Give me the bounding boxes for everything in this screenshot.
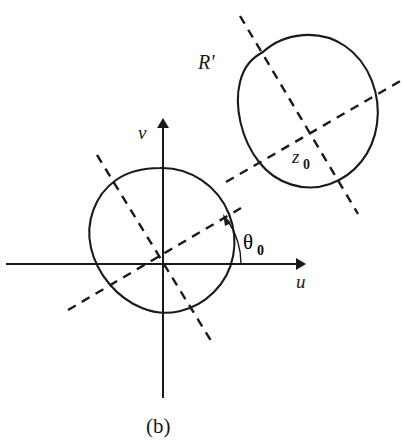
dashed-axis-origin-steep [97,155,213,344]
figure-caption: (b) [146,414,171,438]
u-axis-arrowhead [296,258,306,270]
angle-theta-subscript: 0 [257,243,264,258]
figure-container: R' z 0 u v θ 0 (b) [0,0,402,448]
point-z0-subscript: 0 [303,157,310,172]
point-z0-label: z [291,146,300,167]
v-axis-arrowhead [157,118,169,128]
v-axis-label: v [138,122,147,143]
u-axis-label: u [296,271,306,292]
figure-svg: R' z 0 u v θ 0 (b) [0,0,402,448]
region-prime-label: R' [197,51,215,73]
angle-theta-label: θ [243,230,253,254]
region-origin-outline [89,168,234,313]
